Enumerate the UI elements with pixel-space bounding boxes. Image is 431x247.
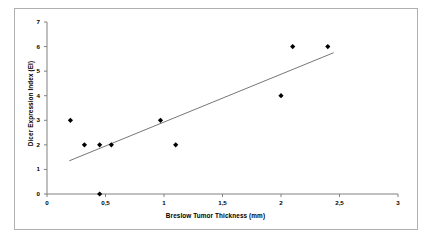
figure: 00,511,522,53 01234567 Breslow Tumor Thi… bbox=[0, 0, 431, 247]
trendline bbox=[69, 53, 333, 161]
chart-frame: 00,511,522,53 01234567 bbox=[14, 8, 418, 230]
data-point-markers bbox=[68, 44, 331, 197]
y-axis-title-container: Dicer Expression Index (EI) bbox=[22, 0, 36, 247]
x-tick-label: 3 bbox=[388, 199, 408, 206]
data-point bbox=[325, 44, 330, 49]
x-tick-label: 1 bbox=[154, 199, 174, 206]
x-tick-label: 0 bbox=[37, 199, 57, 206]
data-point bbox=[278, 93, 283, 98]
scatter-plot-canvas bbox=[15, 9, 419, 231]
x-axis-title: Breslow Tumor Thickness (mm) bbox=[0, 212, 431, 219]
y-axis-title: Dicer Expression Index (EI) bbox=[27, 34, 34, 174]
data-point bbox=[82, 142, 87, 147]
data-point bbox=[173, 142, 178, 147]
data-point bbox=[97, 142, 102, 147]
data-point bbox=[68, 118, 73, 123]
x-tick-label: 2 bbox=[271, 199, 291, 206]
data-point bbox=[290, 44, 295, 49]
data-point bbox=[97, 191, 102, 196]
x-tick-label: 0,5 bbox=[96, 199, 116, 206]
data-point bbox=[158, 118, 163, 123]
x-tick-label: 1,5 bbox=[213, 199, 233, 206]
x-tick-label: 2,5 bbox=[330, 199, 350, 206]
